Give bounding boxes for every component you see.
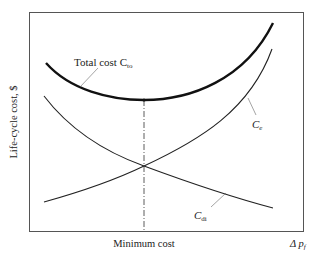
life-cycle-cost-diagram: Total cost Cto Ce Cdi Life-cycle cost, $… — [0, 0, 315, 253]
ce-leader — [248, 98, 256, 115]
x-axis-label: Δ pf — [289, 238, 307, 251]
ce-curve — [44, 49, 272, 202]
plot-frame — [30, 13, 304, 232]
y-axis-label: Life-cycle cost, $ — [8, 85, 19, 158]
total-cost-label: Total cost Cto — [74, 56, 133, 70]
cdi-label: Cdi — [194, 209, 207, 223]
minimum-point — [142, 98, 145, 101]
ce-label: Ce — [252, 118, 262, 132]
x-annotation-minimum-cost: Minimum cost — [113, 238, 175, 249]
cdi-leader — [211, 193, 226, 207]
total-cost-leader — [80, 68, 98, 87]
